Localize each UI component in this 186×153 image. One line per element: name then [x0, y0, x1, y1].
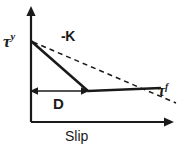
label-x-axis-slip: Slip [65, 129, 88, 143]
x-axis [31, 117, 174, 126]
label-yield-stress-base: τ [3, 32, 11, 51]
label-slip-distance-d: D [53, 96, 64, 111]
y-axis [26, 6, 35, 122]
slip-weakening-curve [31, 41, 161, 91]
slip-weakening-diagram: τy τf -K D Slip [0, 0, 186, 153]
label-yield-stress: τy [3, 32, 15, 50]
label-slope-k: -K [61, 29, 75, 43]
label-final-stress-superscript: f [165, 81, 168, 92]
label-final-stress: τf [158, 82, 168, 99]
label-yield-stress-superscript: y [11, 31, 16, 42]
diagram-canvas [0, 0, 186, 153]
x-axis-arrowhead-icon [164, 117, 174, 126]
slope-k-dashed-line [33, 42, 176, 103]
d-dimension-arrow [30, 87, 89, 95]
y-axis-arrowhead-icon [26, 6, 35, 16]
